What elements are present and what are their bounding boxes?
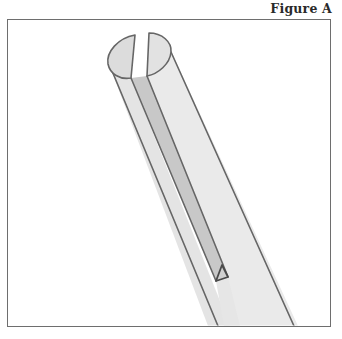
- split-tube-illustration: [0, 0, 342, 339]
- left-cap: [108, 35, 135, 78]
